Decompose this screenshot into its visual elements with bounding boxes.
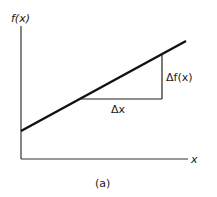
x-axis-label: x [190, 153, 198, 166]
figure-caption: (a) [95, 177, 110, 190]
slope-diagram: f(x) x Δx Δf(x) (a) [0, 0, 217, 197]
function-line [21, 41, 186, 131]
y-axis-label: f(x) [11, 12, 30, 25]
delta-fx-label: Δf(x) [166, 71, 193, 84]
delta-x-label: Δx [111, 103, 126, 116]
